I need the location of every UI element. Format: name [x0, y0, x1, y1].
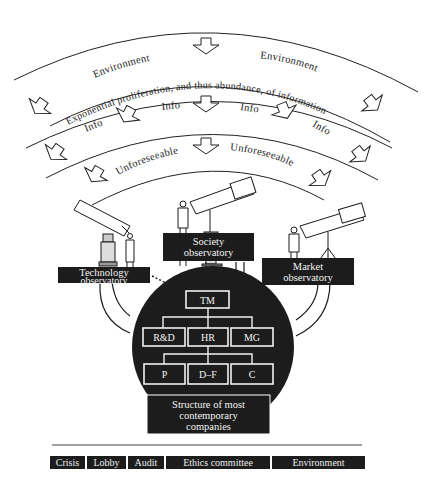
telescope-technology-icon [74, 200, 134, 268]
svg-text:MG: MG [244, 332, 260, 343]
environment-label-left: Environment [91, 52, 150, 80]
arrow-down-left-icon [80, 161, 111, 188]
arrow-down-right-icon [357, 89, 387, 118]
svg-text:Structure of most: Structure of most [172, 399, 245, 410]
unforeseeable-label-left: Unforeseeable [114, 144, 179, 176]
unforeseeable-label-right: Unforeseeable [230, 141, 296, 168]
svg-text:D–F: D–F [199, 369, 217, 380]
svg-text:companies: companies [186, 421, 231, 432]
tag-environment[interactable]: Environment [272, 456, 365, 469]
telescope-market-icon [289, 203, 365, 266]
info-label-2: Info [161, 99, 181, 112]
arrow-down-right-icon [345, 140, 375, 169]
svg-text:Society: Society [193, 236, 225, 247]
tag-crisis[interactable]: Crisis [50, 456, 85, 469]
org-node-c[interactable]: C [231, 364, 273, 384]
technology-observatory-box[interactable]: Technology observatory [58, 267, 150, 286]
band-arc-top [50, 87, 390, 142]
svg-text:Ethics committee: Ethics committee [183, 457, 253, 468]
info-label-3: Info [240, 101, 260, 114]
arrow-down-right-icon [305, 165, 335, 193]
environment-label-right: Environment [260, 49, 320, 73]
svg-text:Crisis: Crisis [56, 457, 79, 468]
tag-ethics-committee[interactable]: Ethics committee [166, 456, 270, 469]
arrow-down-icon [193, 96, 219, 112]
arrow-down-left-icon [24, 93, 54, 121]
footer-tags: Crisis Lobby Audit Ethics committee Envi… [50, 456, 365, 469]
arrow-down-icon [193, 38, 219, 54]
market-observatory-box[interactable]: Market observatory [262, 258, 354, 285]
org-node-rnd[interactable]: R&D [143, 328, 185, 346]
tag-lobby[interactable]: Lobby [87, 456, 126, 469]
svg-text:Market: Market [293, 261, 323, 272]
svg-text:Lobby: Lobby [93, 457, 119, 468]
svg-text:C: C [249, 369, 256, 380]
svg-text:observatory: observatory [283, 272, 333, 283]
tag-audit[interactable]: Audit [128, 456, 164, 469]
svg-text:HR: HR [201, 332, 215, 343]
svg-text:observatory: observatory [80, 275, 127, 286]
org-node-hr[interactable]: HR [188, 328, 228, 346]
svg-text:TM: TM [200, 295, 215, 306]
svg-text:observatory: observatory [184, 247, 234, 258]
org-node-mg[interactable]: MG [231, 328, 273, 346]
svg-text:contemporary: contemporary [179, 410, 238, 421]
org-node-p[interactable]: P [144, 364, 185, 384]
arrow-down-left-icon [40, 139, 70, 167]
svg-text:Environment: Environment [292, 457, 344, 468]
company-structure-box: Structure of most contemporary companies [147, 395, 270, 434]
org-node-df[interactable]: D–F [188, 364, 228, 384]
svg-text:Audit: Audit [135, 457, 158, 468]
diagram-canvas: Environment Environment Exponential prol… [0, 0, 432, 483]
arrow-down-icon [193, 138, 219, 154]
svg-text:P: P [162, 369, 168, 380]
org-node-tm[interactable]: TM [186, 291, 229, 308]
info-label-1: Info [83, 117, 104, 134]
svg-text:R&D: R&D [153, 332, 175, 343]
society-observatory-box[interactable]: Society observatory [163, 233, 254, 261]
